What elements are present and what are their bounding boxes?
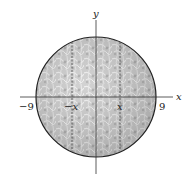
tick-label-neg-9: −9	[19, 101, 34, 112]
tick-label-pos-9: 9	[159, 101, 165, 112]
x-axis-label: x	[176, 91, 182, 102]
circle-diagram: x y −9 9 −x x	[0, 0, 190, 179]
y-axis-label: y	[92, 8, 99, 19]
tick-label-neg-x: −x	[64, 101, 78, 112]
tick-label-pos-x: x	[117, 101, 123, 112]
